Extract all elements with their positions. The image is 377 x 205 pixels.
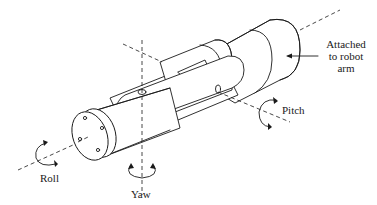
attached-label: Attached to robot arm xyxy=(318,38,374,74)
attached-label-line1: Attached xyxy=(318,38,374,50)
pitch-axis xyxy=(123,44,162,62)
circular-arrow-icon xyxy=(259,97,278,130)
arrow-left-icon xyxy=(286,54,318,59)
attached-label-line3: arm xyxy=(318,62,374,74)
attached-label-line2: to robot xyxy=(318,50,374,62)
yaw-label: Yaw xyxy=(131,188,151,200)
roll-label: Roll xyxy=(40,172,59,184)
pitch-label: Pitch xyxy=(282,104,305,116)
roll-axis-far xyxy=(300,10,340,30)
circular-arrow-icon xyxy=(36,140,58,167)
